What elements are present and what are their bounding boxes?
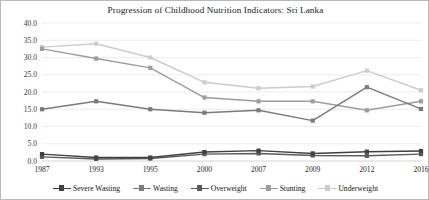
line-chart-svg: 0.05.010.015.020.025.030.035.040.0 19871… <box>1 1 429 200</box>
data-point-marker <box>365 150 369 154</box>
legend-marker-icon <box>139 185 144 190</box>
series-line-underweight <box>42 44 421 91</box>
data-point-marker <box>148 155 152 159</box>
x-axis-tick-label: 2000 <box>197 165 212 174</box>
y-axis-tick-label: 10.0 <box>24 122 37 131</box>
chart-container: Progression of Childhood Nutrition Indic… <box>0 0 429 200</box>
y-axis-tick-label: 30.0 <box>24 53 37 62</box>
data-point-marker <box>419 99 423 103</box>
data-point-marker <box>94 56 98 60</box>
chart-legend: Severe WastingWastingOverweightStuntingU… <box>1 180 429 196</box>
legend-item-underweight[interactable]: Underweight <box>318 184 378 193</box>
data-point-marker <box>419 149 423 153</box>
legend-marker-icon <box>197 185 202 190</box>
legend-item-label: Stunting <box>280 184 306 193</box>
x-axis-tick-label: 2007 <box>251 165 266 174</box>
data-point-marker <box>311 99 315 103</box>
data-point-marker <box>94 42 98 46</box>
y-axis-tick-label: 15.0 <box>24 105 37 114</box>
legend-marker-icon <box>266 185 271 190</box>
x-axis-tick-label: 2009 <box>305 165 320 174</box>
data-point-marker <box>419 88 423 92</box>
legend-swatch-icon <box>260 185 278 192</box>
data-point-marker <box>365 69 369 73</box>
data-point-marker <box>256 108 260 112</box>
data-point-marker <box>202 150 206 154</box>
data-point-marker <box>311 119 315 123</box>
legend-item-overweight[interactable]: Overweight <box>191 184 247 193</box>
data-point-marker <box>365 108 369 112</box>
legend-item-wasting[interactable]: Wasting <box>133 184 178 193</box>
y-axis-tick-label: 25.0 <box>24 70 37 79</box>
y-axis-tick-label: 5.0 <box>28 139 38 148</box>
legend-item-label: Underweight <box>338 184 378 193</box>
data-point-marker <box>311 151 315 155</box>
legend-item-label: Overweight <box>211 184 247 193</box>
data-point-marker <box>202 95 206 99</box>
legend-item-stunting[interactable]: Stunting <box>260 184 306 193</box>
plot-area: 0.05.010.015.020.025.030.035.040.0 19871… <box>1 1 429 200</box>
data-point-marker <box>256 86 260 90</box>
legend-marker-icon <box>325 185 330 190</box>
legend-swatch-icon <box>318 185 336 192</box>
data-point-marker <box>419 107 423 111</box>
x-axis-tick-labels: 19871993199520002007200920122016 <box>34 165 428 174</box>
data-point-marker <box>256 99 260 103</box>
data-point-marker <box>202 80 206 84</box>
data-point-marker <box>40 47 44 51</box>
legend-swatch-icon <box>191 185 209 192</box>
data-point-marker <box>148 107 152 111</box>
data-point-marker <box>365 154 369 158</box>
data-point-marker <box>365 85 369 89</box>
data-point-marker <box>94 99 98 103</box>
data-point-marker <box>256 149 260 153</box>
legend-item-label: Wasting <box>153 184 178 193</box>
data-point-marker <box>40 152 44 156</box>
y-axis-tick-label: 40.0 <box>24 19 37 28</box>
x-axis-tick-label: 1993 <box>89 165 104 174</box>
x-axis-tick-label: 2016 <box>413 165 428 174</box>
y-axis-tick-label: 20.0 <box>24 88 37 97</box>
legend-swatch-icon <box>53 185 71 192</box>
data-point-marker <box>94 155 98 159</box>
series-lines <box>40 42 423 161</box>
data-point-marker <box>148 55 152 59</box>
legend-item-severe-wasting[interactable]: Severe Wasting <box>53 184 120 193</box>
legend-swatch-icon <box>133 185 151 192</box>
legend-marker-icon <box>59 185 64 190</box>
x-axis-tick-label: 1995 <box>143 165 158 174</box>
legend-item-label: Severe Wasting <box>73 184 120 193</box>
x-axis-tick-label: 1987 <box>34 165 49 174</box>
y-axis-tick-labels: 0.05.010.015.020.025.030.035.040.0 <box>24 19 37 166</box>
data-point-marker <box>311 84 315 88</box>
data-point-marker <box>148 66 152 70</box>
x-axis-tick-label: 2012 <box>359 165 374 174</box>
y-axis-tick-label: 35.0 <box>24 36 37 45</box>
data-point-marker <box>202 111 206 115</box>
data-point-marker <box>40 107 44 111</box>
